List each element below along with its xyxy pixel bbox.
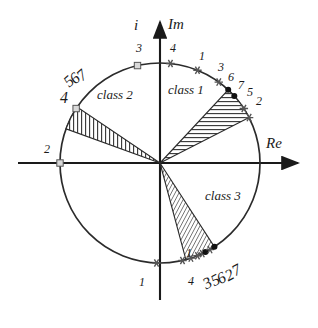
point-label-m-c1-3: 3 [218, 61, 224, 73]
point-label-m-c2-4: 4 [60, 90, 68, 106]
sector-class-2 [66, 107, 160, 163]
point-label-m-c3-4: 4 [188, 275, 194, 287]
point-label-m-c1-7: 7 [238, 79, 244, 91]
imaginary-axis-symbol: i [134, 18, 138, 33]
point-label-m-c1-6: 6 [228, 71, 234, 83]
class-1-label: class 1 [168, 83, 204, 96]
circle-marker [231, 93, 237, 99]
point-label-m-c1-1: 1 [199, 50, 205, 62]
point-label-m-bot-1: 1 [139, 276, 145, 288]
point-label-m-left-2: 2 [44, 143, 50, 155]
sector-class-1 [160, 90, 249, 163]
circle-marker [225, 87, 231, 93]
circle-marker [134, 62, 140, 68]
circle-marker [57, 160, 63, 166]
circle-marker [166, 60, 174, 67]
point-label-m-c1-5: 5 [247, 86, 253, 98]
point-label-m-top-4: 4 [170, 42, 176, 54]
point-label-m-top-3: 3 [136, 42, 142, 54]
point-label-m-c3-1: 1 [186, 247, 192, 259]
point-label-m-c1-2: 2 [256, 95, 262, 107]
real-axis-label: Re [266, 136, 282, 151]
class-2-label: class 2 [97, 88, 133, 101]
imaginary-axis-label: Im [168, 17, 184, 32]
circle-marker [211, 244, 217, 250]
class-3-label: class 3 [205, 189, 241, 202]
circle-marker [193, 67, 201, 74]
circle-marker [73, 105, 79, 111]
complex-plane-figure [0, 0, 318, 328]
